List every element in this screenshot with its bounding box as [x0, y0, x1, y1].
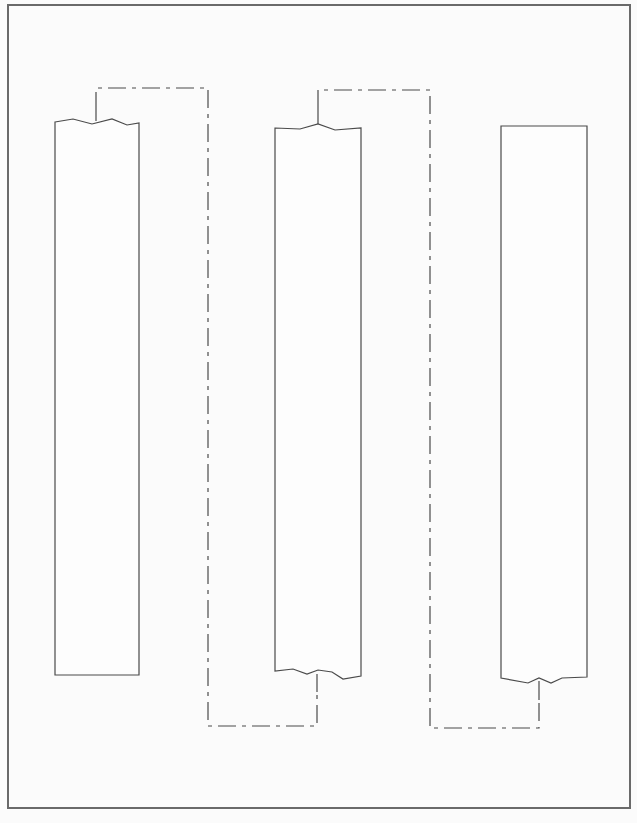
strip-left: [55, 119, 139, 675]
strip-middle: [275, 124, 361, 679]
strip-right: [501, 126, 587, 683]
diagram-figure: [0, 0, 637, 823]
